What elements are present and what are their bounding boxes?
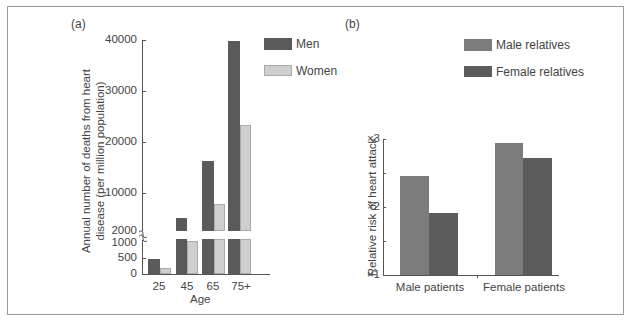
ytick-mark	[383, 173, 386, 174]
bar-women-75plus-lower	[240, 239, 251, 274]
bar-men-45-upper	[176, 218, 187, 231]
bar-men-75plus-upper	[228, 41, 240, 231]
panel-a-x-axis-title: Age	[190, 293, 210, 305]
ytick-label: ×3	[330, 132, 380, 144]
legend-label-male-relatives: Male relatives	[496, 38, 570, 52]
panel-b-label: (b)	[345, 17, 360, 31]
bar-women-75plus-upper	[240, 125, 251, 231]
bar-female-patients-male-relatives	[495, 143, 523, 275]
panel-a-label: (a)	[71, 17, 86, 31]
bar-men-75plus-lower	[228, 239, 240, 274]
ytick-label: 10000	[87, 186, 137, 198]
legend-label-men: Men	[296, 37, 319, 51]
ytick-mark	[142, 193, 146, 194]
ytick-label: 500	[87, 251, 137, 263]
ytick-label: 40000	[87, 33, 137, 45]
ytick-mark	[142, 91, 146, 92]
axis-break-icon	[136, 229, 150, 243]
ytick-mark	[383, 241, 386, 242]
bar-men-25	[148, 259, 160, 274]
ytick-label: ×2	[330, 200, 380, 212]
ytick-label: 30000	[87, 84, 137, 96]
ytick-mark	[383, 139, 386, 140]
xtick-label: Male patients	[385, 281, 475, 293]
legend-swatch-women	[264, 65, 292, 76]
xtick-mark	[477, 275, 478, 278]
panel-a-y-axis-upper	[142, 40, 143, 231]
ytick-label: 20000	[87, 135, 137, 147]
bar-men-65-upper	[202, 161, 214, 231]
legend-label-female-relatives: Female relatives	[496, 65, 584, 79]
bar-men-65-lower	[202, 239, 214, 274]
bar-women-65-lower	[214, 239, 225, 274]
ytick-label: 2000	[87, 224, 137, 236]
bar-men-45-lower	[176, 239, 187, 274]
xtick-label: 25	[146, 280, 172, 292]
bar-women-45	[187, 241, 198, 274]
bar-female-patients-female-relatives	[523, 158, 552, 275]
xtick-label: 45	[174, 280, 200, 292]
xtick-label: Female patients	[478, 281, 570, 293]
panel-a-x-axis	[142, 274, 270, 275]
bar-male-patients-male-relatives	[400, 176, 429, 275]
bar-women-25	[160, 268, 171, 274]
ytick-mark	[142, 40, 146, 41]
ytick-mark	[383, 207, 386, 208]
ytick-label: 0	[87, 267, 137, 279]
legend-swatch-men	[264, 38, 292, 50]
xtick-label: 75+	[226, 280, 256, 292]
ytick-mark	[142, 142, 146, 143]
bar-male-patients-female-relatives	[429, 213, 458, 275]
ytick-label: ×1	[330, 268, 380, 280]
legend-swatch-female-relatives	[464, 66, 492, 77]
legend-swatch-male-relatives	[464, 39, 492, 51]
bar-women-65-upper	[214, 204, 225, 231]
legend-label-women: Women	[296, 64, 337, 78]
ytick-mark	[142, 258, 146, 259]
xtick-label: 65	[200, 280, 226, 292]
ytick-label: 1000	[87, 236, 137, 248]
panel-b-x-axis	[383, 275, 559, 276]
